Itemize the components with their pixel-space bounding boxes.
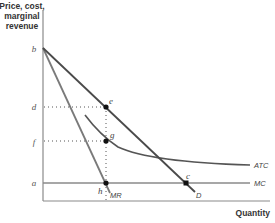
point-label-c: c bbox=[186, 171, 190, 181]
point-h bbox=[103, 180, 108, 185]
y-axis-title-line1: Price, cost, bbox=[0, 1, 45, 11]
point-label-g: g bbox=[110, 130, 115, 140]
curve-label-mc: MC bbox=[254, 179, 266, 188]
demand-curve bbox=[43, 48, 195, 192]
point-c bbox=[184, 181, 189, 186]
price-label-d: d bbox=[32, 102, 37, 112]
curve-label-atc: ATC bbox=[253, 161, 269, 170]
point-label-h: h bbox=[98, 186, 103, 196]
atc-curve bbox=[85, 115, 250, 165]
curve-label-mr: MR bbox=[110, 191, 122, 200]
point-e bbox=[103, 104, 108, 109]
price-label-a: a bbox=[32, 178, 37, 188]
price-label-f: f bbox=[33, 137, 37, 147]
point-label-e: e bbox=[109, 96, 113, 106]
point-g bbox=[103, 138, 108, 143]
y-axis-title-line2: marginal bbox=[4, 11, 39, 21]
price-label-b: b bbox=[32, 44, 37, 54]
monopoly-diagram: Price, cost, marginal revenue Quantity b… bbox=[0, 0, 275, 223]
y-axis-title-line3: revenue bbox=[6, 21, 39, 31]
mr-curve bbox=[43, 48, 110, 193]
curve-label-d: D bbox=[196, 191, 202, 200]
x-axis-title: Quantity bbox=[236, 208, 271, 218]
